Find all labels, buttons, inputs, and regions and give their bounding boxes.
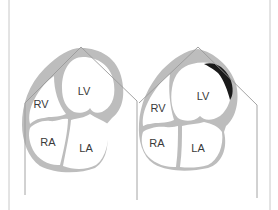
heart-left [22,47,137,200]
label-lv-left: LV [78,86,91,97]
label-ra-left: RA [40,137,55,148]
echo-figure: LV RV RA LA LV RV RA LA [0,0,278,210]
label-ra-right: RA [149,138,164,149]
label-la-right: LA [191,143,204,154]
label-rv-left: RV [33,99,48,110]
heart-right [139,47,257,198]
label-lv-right: LV [197,91,210,102]
label-la-left: LA [79,143,92,154]
label-rv-right: RV [150,103,165,114]
